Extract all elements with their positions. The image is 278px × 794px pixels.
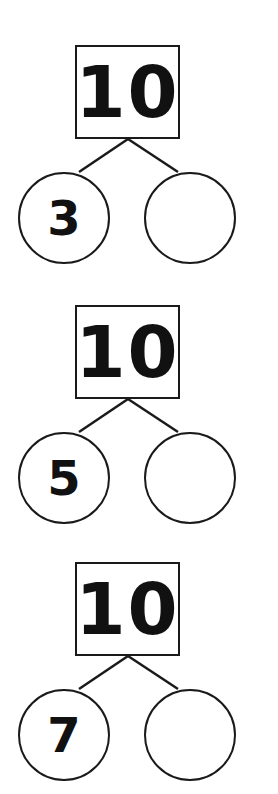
part-number-left: 3 <box>47 194 80 242</box>
part-circle-left: 5 <box>18 432 110 524</box>
part-circle-left: 3 <box>18 172 110 264</box>
part-number-left: 5 <box>47 454 80 502</box>
number-bond-2: 10 5 <box>0 290 278 530</box>
part-circle-left: 7 <box>18 689 110 781</box>
whole-box: 10 <box>75 562 180 656</box>
whole-number: 10 <box>75 573 179 645</box>
whole-box: 10 <box>75 45 180 139</box>
number-bond-3: 10 7 <box>0 547 278 787</box>
part-number-left: 7 <box>47 711 80 759</box>
whole-box: 10 <box>75 305 180 399</box>
part-circle-right[interactable] <box>144 172 236 264</box>
whole-number: 10 <box>75 316 179 388</box>
part-circle-right[interactable] <box>144 432 236 524</box>
number-bond-1: 10 3 <box>0 30 278 270</box>
whole-number: 10 <box>75 56 179 128</box>
part-circle-right[interactable] <box>144 689 236 781</box>
